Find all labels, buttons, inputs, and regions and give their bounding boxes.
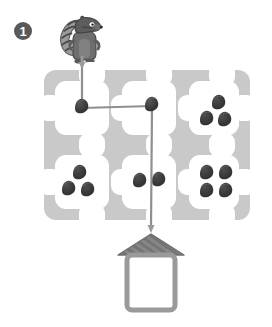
squirrel-belly <box>79 39 90 58</box>
maze-notch-mid-1 <box>79 133 105 157</box>
maze-notch-top-3 <box>209 62 235 86</box>
badge-label: 1 <box>19 24 26 39</box>
maze-grid <box>38 62 256 228</box>
maze-notch-col-2b <box>178 169 202 195</box>
maze-notch-left-2 <box>38 169 62 195</box>
maze-notch-mid-2 <box>146 133 172 157</box>
maze-notch-right-2 <box>232 169 256 195</box>
maze-notch-mid-3 <box>209 133 235 157</box>
maze-cell-bottom-left <box>55 155 109 209</box>
maze-notch-left-1 <box>38 95 62 121</box>
maze-notch-right-1 <box>232 95 256 121</box>
maze-notch-top-2 <box>146 62 172 86</box>
squirrel-nose <box>100 25 103 28</box>
maze-notch-bottom-1 <box>79 204 105 228</box>
maze-notch-col-2a <box>178 95 202 121</box>
maze-notch-bottom-2 <box>146 204 172 228</box>
worksheet-scene: 1 <box>0 0 272 327</box>
problem-number-badge: 1 <box>14 22 32 40</box>
squirrel-eye-pupil <box>91 23 93 25</box>
route-arrow-stem-1 <box>81 56 84 63</box>
maze-notch-bottom-3 <box>209 204 235 228</box>
route-segment-down-2 <box>151 106 152 227</box>
answer-box[interactable] <box>132 260 170 305</box>
maze-notch-col-1b <box>111 169 135 195</box>
squirrel-cheek-stripe <box>82 27 92 28</box>
